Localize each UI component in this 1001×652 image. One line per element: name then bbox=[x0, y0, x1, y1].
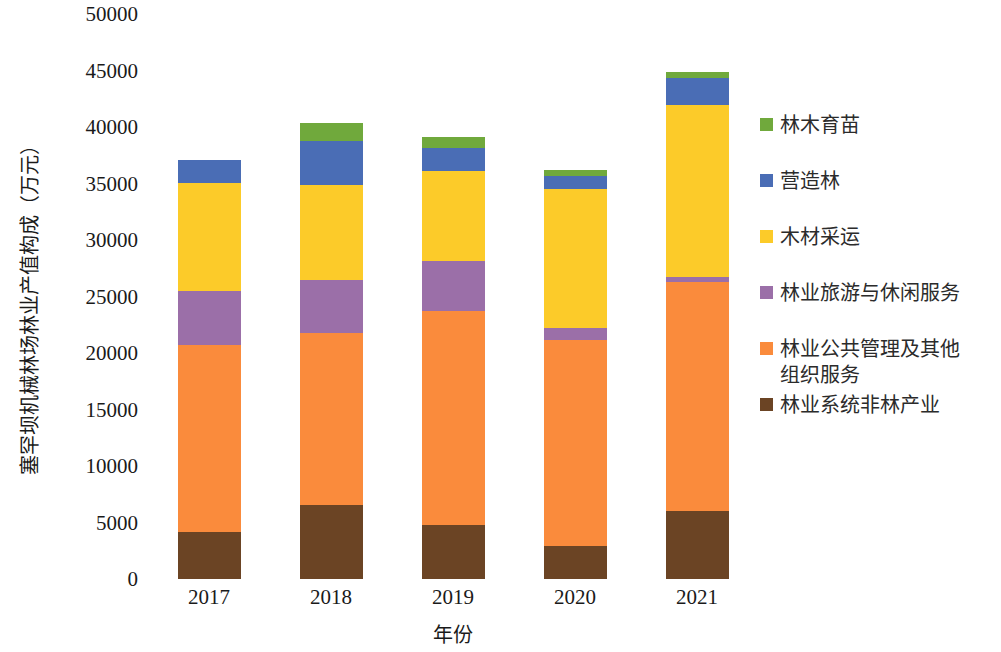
y-axis-title: 塞罕坝机械林场林业产值构成（万元） bbox=[14, 55, 43, 555]
legend-item[interactable]: 林业旅游与休闲服务 bbox=[760, 280, 1001, 306]
bar-segment bbox=[422, 148, 485, 171]
y-tick-label: 35000 bbox=[86, 171, 139, 196]
legend-label: 林业系统非林产业 bbox=[780, 392, 940, 418]
bar-segment bbox=[422, 137, 485, 148]
bar-segment bbox=[666, 282, 729, 511]
bar-segment bbox=[544, 340, 607, 546]
bar-group bbox=[148, 14, 758, 579]
x-axis-title: 年份 bbox=[148, 619, 758, 648]
legend-swatch-icon bbox=[760, 230, 773, 243]
bar-segment bbox=[300, 280, 363, 334]
bar-segment bbox=[300, 123, 363, 141]
bar-segment bbox=[422, 311, 485, 526]
x-tick-label: 2021 bbox=[666, 585, 729, 610]
bar-stack-2017 bbox=[178, 14, 241, 579]
legend-swatch-icon bbox=[760, 342, 773, 355]
bar-segment bbox=[300, 141, 363, 185]
y-tick-label: 15000 bbox=[86, 397, 139, 422]
x-axis-tick-labels: 20172018201920202021 bbox=[148, 585, 758, 610]
y-tick-label: 45000 bbox=[86, 58, 139, 83]
legend-item[interactable]: 林业系统非林产业 bbox=[760, 392, 1001, 418]
bar-segment bbox=[178, 532, 241, 579]
bar-segment bbox=[300, 505, 363, 579]
y-tick-label: 40000 bbox=[86, 115, 139, 140]
x-tick-label: 2020 bbox=[544, 585, 607, 610]
legend-label: 木材采运 bbox=[780, 224, 860, 250]
bar-stack-2020 bbox=[544, 14, 607, 579]
legend-item[interactable]: 林木育苗 bbox=[760, 112, 1001, 138]
legend-label: 林业公共管理及其他 组织服务 bbox=[780, 336, 960, 388]
legend-swatch-icon bbox=[760, 398, 773, 411]
y-tick-label: 10000 bbox=[86, 454, 139, 479]
legend-label: 林木育苗 bbox=[780, 112, 860, 138]
y-tick-label: 50000 bbox=[86, 2, 139, 27]
bar-segment bbox=[544, 176, 607, 189]
bar-segment bbox=[300, 185, 363, 280]
y-tick-label: 5000 bbox=[96, 510, 138, 535]
legend-item[interactable]: 木材采运 bbox=[760, 224, 1001, 250]
chart-legend: 林木育苗营造林木材采运林业旅游与休闲服务林业公共管理及其他 组织服务林业系统非林… bbox=[760, 112, 1001, 448]
legend-item[interactable]: 营造林 bbox=[760, 168, 1001, 194]
bar-segment bbox=[178, 160, 241, 183]
bar-segment bbox=[422, 261, 485, 311]
bar-segment bbox=[544, 328, 607, 340]
legend-item[interactable]: 林业公共管理及其他 组织服务 bbox=[760, 336, 1001, 388]
bar-segment bbox=[178, 183, 241, 291]
legend-label: 林业旅游与休闲服务 bbox=[780, 280, 960, 306]
x-tick-label: 2019 bbox=[422, 585, 485, 610]
legend-label: 营造林 bbox=[780, 168, 840, 194]
x-tick-label: 2017 bbox=[178, 585, 241, 610]
bar-segment bbox=[422, 525, 485, 579]
plot-area: 0500010000150002000025000300003500040000… bbox=[148, 14, 758, 579]
y-tick-label: 30000 bbox=[86, 228, 139, 253]
legend-swatch-icon bbox=[760, 286, 773, 299]
bar-segment bbox=[666, 78, 729, 105]
legend-swatch-icon bbox=[760, 174, 773, 187]
y-tick-label: 20000 bbox=[86, 341, 139, 366]
bar-segment bbox=[178, 291, 241, 345]
legend-swatch-icon bbox=[760, 118, 773, 131]
bar-segment bbox=[544, 189, 607, 327]
y-tick-label: 25000 bbox=[86, 284, 139, 309]
bar-segment bbox=[300, 333, 363, 505]
y-tick-label: 0 bbox=[128, 567, 139, 592]
bar-stack-2019 bbox=[422, 14, 485, 579]
stacked-bar-chart: 塞罕坝机械林场林业产值构成（万元） 0500010000150002000025… bbox=[0, 0, 1001, 652]
bar-segment bbox=[422, 171, 485, 261]
bar-segment bbox=[544, 546, 607, 579]
bar-stack-2021 bbox=[666, 14, 729, 579]
x-tick-label: 2018 bbox=[300, 585, 363, 610]
bar-stack-2018 bbox=[300, 14, 363, 579]
bar-segment bbox=[666, 105, 729, 277]
bar-segment bbox=[666, 511, 729, 579]
bar-segment bbox=[178, 345, 241, 531]
